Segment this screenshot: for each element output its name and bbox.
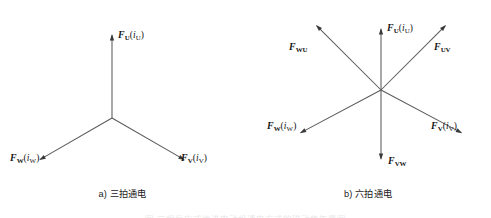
arrowhead-f-u: [110, 34, 114, 40]
vector-label-f-w: FW(iW): [267, 121, 296, 133]
panel-caption-six-step: b) 六拍通电: [245, 186, 491, 200]
cutoff-figure-caption: 图 三相反应式步进电动机通电方式的磁动势矢量图: [0, 212, 491, 218]
arrowhead-f-u: [379, 28, 383, 34]
vector-label-f-u: FU(iU): [387, 23, 413, 35]
vector-label-f-w: FW(iW): [10, 153, 39, 165]
vector-arrow-f-w: [40, 118, 112, 159]
vector-label-f-vw: FVW: [388, 156, 407, 168]
vector-arrow-f-w: [301, 90, 381, 133]
vector-label-f-u: FU(iU): [118, 30, 144, 42]
figure-root: FU(iU) FW(iW) FV(iV) a) 三拍通电 FU(iU) FUV …: [0, 0, 491, 218]
panel-six-step: FU(iU) FUV FV(iV) FVW FW(iW) FWU b) 六拍通电: [245, 0, 491, 218]
vector-label-f-wu: FWU: [289, 42, 308, 54]
panel-three-step: FU(iU) FW(iW) FV(iV) a) 三拍通电: [0, 0, 245, 218]
arrowhead-f-w: [39, 155, 46, 160]
vector-label-f-v: FV(iV): [431, 121, 457, 133]
vector-arrow-f-wu: [317, 26, 381, 90]
vector-label-f-uv: FUV: [434, 42, 451, 54]
arrowhead-f-vw: [379, 154, 383, 160]
arrowhead-f-w: [300, 128, 307, 133]
vector-label-f-v: FV(iV): [181, 153, 207, 165]
vector-arrow-f-uv: [381, 26, 445, 90]
vector-arrow-f-v: [112, 118, 184, 159]
vector-diagram-six-step: [245, 0, 491, 190]
panel-caption-three-step: a) 三拍通电: [0, 186, 245, 200]
